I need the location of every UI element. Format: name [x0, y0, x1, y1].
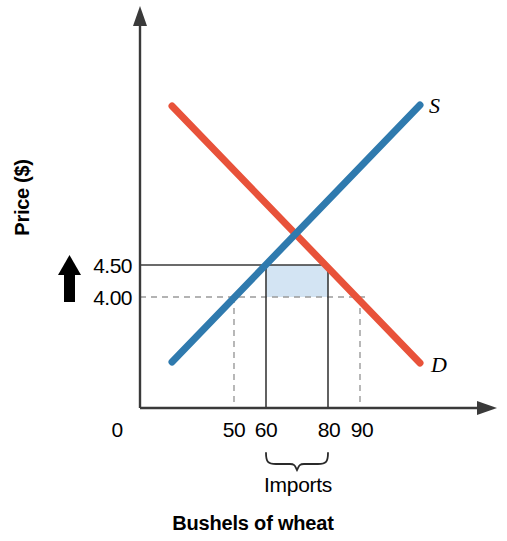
- x-tick-label-80: 80: [312, 418, 346, 442]
- x-axis-arrowhead: [477, 401, 497, 415]
- y-tick-label-450: 4.50: [24, 254, 132, 278]
- x-tick-label-60: 60: [249, 418, 283, 442]
- demand-curve-label: D: [431, 352, 447, 378]
- x-tick-label-90: 90: [345, 418, 379, 442]
- supply-demand-chart: Price ($) 4.50 4.00 0 50 60 80 90 S D Im…: [0, 0, 507, 541]
- y-tick-label-400: 4.00: [24, 286, 132, 310]
- supply-curve-label: S: [429, 93, 440, 119]
- imports-shaded-region: [266, 265, 328, 297]
- x-tick-label-50: 50: [217, 418, 251, 442]
- y-axis-title: Price ($): [11, 138, 34, 258]
- imports-brace-icon: [266, 453, 328, 470]
- x-axis-title: Bushels of wheat: [63, 512, 443, 535]
- y-axis-arrowhead: [133, 6, 147, 26]
- x-tick-label-0: 0: [100, 418, 134, 442]
- imports-label: Imports: [236, 473, 360, 497]
